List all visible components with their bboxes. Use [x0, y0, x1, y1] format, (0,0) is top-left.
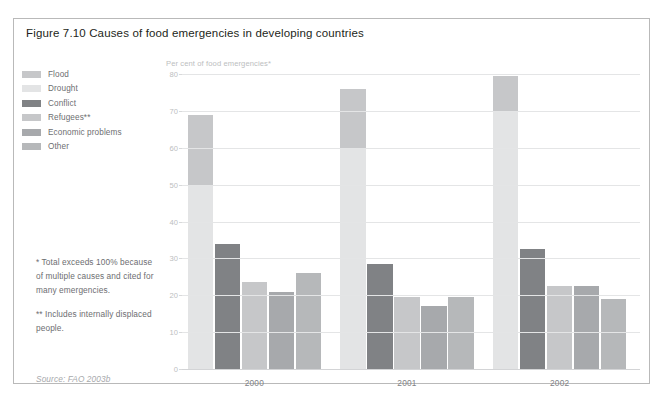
y-axis-tickmark — [179, 295, 182, 296]
gridline — [182, 148, 640, 149]
legend-swatch-icon — [22, 100, 41, 107]
y-axis-tick-label: 60 — [170, 143, 178, 152]
source-note: Source: FAO 2003b — [36, 374, 110, 384]
y-axis-tick-label: 30 — [170, 254, 178, 263]
y-axis-tickmark — [179, 258, 182, 259]
legend-swatch-icon — [22, 85, 41, 92]
y-axis-tick-label: 40 — [170, 217, 178, 226]
bar-conflict — [520, 249, 546, 369]
legend-item: Conflict — [22, 96, 162, 111]
y-axis-tick-label: 50 — [170, 180, 178, 189]
legend-item: Other — [22, 140, 162, 155]
gridline — [182, 332, 640, 333]
legend-swatch-icon — [22, 129, 41, 136]
bar-conflict — [215, 244, 241, 369]
y-axis-tickmark — [179, 332, 182, 333]
legend-item-label: Drought — [48, 84, 78, 93]
legend-item: Economic problems — [22, 125, 162, 140]
bar-stacked-flood-drought — [340, 89, 366, 369]
x-axis-group-label: 2001 — [397, 378, 416, 388]
bar-segment-drought — [493, 111, 519, 369]
bar-segment-flood — [340, 89, 366, 148]
gridline — [182, 111, 640, 112]
y-axis-tickmark — [179, 222, 182, 223]
legend-item-label: Conflict — [48, 99, 76, 108]
legend-item-label: Flood — [48, 70, 69, 79]
x-axis-group-label: 2002 — [550, 378, 569, 388]
bar-conflict — [367, 264, 393, 369]
bar-segment-flood — [188, 115, 214, 185]
legend-swatch-icon — [22, 143, 41, 150]
gridline — [182, 258, 640, 259]
bar-economic-problems — [269, 292, 295, 369]
y-axis-tick-label: 0 — [174, 365, 178, 374]
bar-economic-problems — [574, 286, 600, 369]
bar-stacked-flood-drought — [188, 115, 214, 369]
x-axis-group-label: 2000 — [245, 378, 264, 388]
y-axis-tickmark — [179, 369, 182, 370]
legend-item-label: Other — [48, 142, 69, 151]
y-axis-tick-label: 70 — [170, 106, 178, 115]
bar-segment-drought — [188, 185, 214, 369]
bar-segment-flood — [493, 76, 519, 111]
figure-container: Figure 7.10 Causes of food emergencies i… — [13, 18, 650, 384]
legend-item-label: Economic problems — [48, 128, 122, 137]
y-axis-tick-label: 80 — [170, 70, 178, 79]
bar-other — [601, 299, 627, 369]
gridline — [182, 185, 640, 186]
legend-swatch-icon — [22, 114, 41, 121]
y-axis-tickmark — [179, 111, 182, 112]
y-axis-tickmark — [179, 74, 182, 75]
y-axis-tickmark — [179, 185, 182, 186]
bar-refugees — [547, 286, 573, 369]
legend-swatch-icon — [22, 71, 41, 78]
y-axis-title: Per cent of food emergencies* — [166, 59, 271, 68]
bar-other — [296, 273, 322, 369]
footnote-text: * Total exceeds 100% because of multiple… — [36, 255, 161, 298]
plot-area: Per cent of food emergencies* 2000200120… — [162, 59, 640, 379]
chart-grid: 200020012002 01020304050607080 — [182, 74, 640, 369]
y-axis-tickmark — [179, 148, 182, 149]
legend-item: Refugees** — [22, 111, 162, 126]
page-title: Figure 7.10 Causes of food emergencies i… — [26, 27, 364, 39]
bar-economic-problems — [421, 306, 447, 369]
footnotes-block: * Total exceeds 100% because of multiple… — [36, 255, 161, 344]
gridline — [182, 369, 640, 370]
gridline — [182, 222, 640, 223]
y-axis-tick-label: 10 — [170, 328, 178, 337]
y-axis-tick-label: 20 — [170, 291, 178, 300]
footnote-text: ** Includes internally displaced people. — [36, 307, 161, 335]
legend-item-label: Refugees** — [48, 113, 90, 122]
gridline — [182, 74, 640, 75]
legend-item: Drought — [22, 82, 162, 97]
chart-legend: FloodDroughtConflictRefugees**Economic p… — [22, 67, 162, 154]
gridline — [182, 295, 640, 296]
legend-item: Flood — [22, 67, 162, 82]
